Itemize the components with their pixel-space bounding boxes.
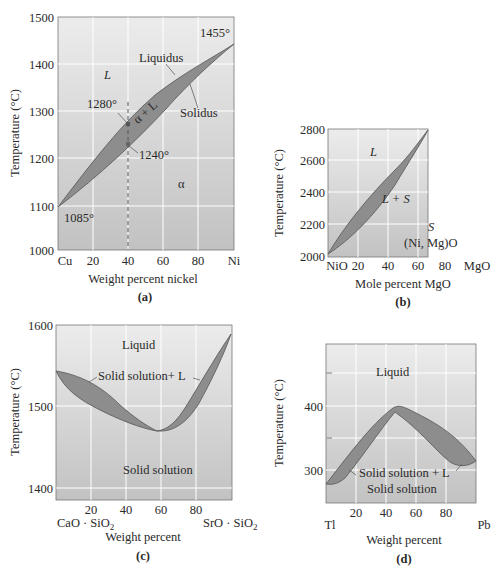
chart-c-x-right-component: SrO · SiO2 xyxy=(203,516,258,532)
chart-c-caption: (c) xyxy=(136,549,150,563)
x-tick: 60 xyxy=(412,259,425,273)
x-tick: 20 xyxy=(352,259,365,273)
x-tick: 80 xyxy=(192,254,205,268)
x-tick: Ni xyxy=(228,254,241,268)
chart-a-label-1240: 1240° xyxy=(139,148,169,162)
x-tick: 80 xyxy=(440,506,453,520)
y-tick: 1500 xyxy=(29,11,54,25)
chart-a-cu-ni: 1500 1400 1300 1200 1100 1000 Temperatur… xyxy=(8,11,241,304)
chart-a-label-1455: 1455° xyxy=(200,26,230,40)
x-tick: 60 xyxy=(410,506,423,520)
y-tick: 1100 xyxy=(29,200,54,214)
chart-a-caption: (a) xyxy=(138,290,153,304)
chart-d-caption: (d) xyxy=(396,552,411,566)
chart-b-label-liquid: L xyxy=(369,145,377,159)
chart-d-tl-pb: 400 300 Temperature (°C) 20 40 60 80 Tl … xyxy=(272,344,491,566)
x-tick: 20 xyxy=(350,506,363,520)
y-tick: 2800 xyxy=(300,123,325,137)
y-tick: 1000 xyxy=(29,244,54,258)
y-tick: 1500 xyxy=(28,400,53,414)
chart-c-label-solid-solution: Solid solution xyxy=(123,463,194,477)
chart-c-y-axis: 1600 1500 1400 Temperature (°C) xyxy=(8,319,53,496)
chart-d-label-liquid: Liquid xyxy=(376,365,410,379)
phase-diagrams-figure: 1500 1400 1300 1200 1100 1000 Temperatur… xyxy=(0,0,496,571)
chart-b-y-axis: 2800 2600 2400 2200 2000 Temperature (°C… xyxy=(272,123,325,264)
chart-c-x-axis: 20 40 60 80 CaO · SiO2 SrO · SiO2 Weight… xyxy=(57,503,258,563)
chart-b-nio-mgo: 2800 2600 2400 2200 2000 Temperature (°C… xyxy=(272,123,490,309)
x-tick: 40 xyxy=(382,259,395,273)
x-tick: NiO xyxy=(326,259,348,273)
chart-c-label-ss-plus-liquid: Solid solution+ L xyxy=(98,369,186,383)
chart-a-x-axis: Cu 20 40 60 80 Ni Weight percent nickel … xyxy=(58,254,241,304)
chart-c-x-axis-label: Weight percent xyxy=(105,530,181,544)
chart-a-label-1280: 1280° xyxy=(87,97,117,111)
chart-b-x-axis-label: Mole percent MgO xyxy=(355,277,451,291)
x-tick: 60 xyxy=(157,254,170,268)
chart-b-label-solid: S xyxy=(428,220,435,234)
x-tick: 80 xyxy=(190,503,203,517)
x-tick: 80 xyxy=(439,259,452,273)
chart-b-label-ni-mg-o: (Ni, Mg)O xyxy=(404,236,457,250)
chart-d-x-left-component: Tl xyxy=(324,518,336,532)
chart-a-label-alpha: α xyxy=(178,177,185,191)
chart-a-label-liquidus: Liquidus xyxy=(139,51,184,65)
chart-c-y-axis-label: Temperature (°C) xyxy=(8,368,22,456)
y-tick: 300 xyxy=(304,464,323,478)
y-tick: 1600 xyxy=(28,319,53,333)
chart-c-cao-sro-silicate: 1600 1500 1400 Temperature (°C) 20 40 60… xyxy=(8,319,258,563)
chart-d-x-axis: 20 40 60 80 Tl Pb Weight percent (d) xyxy=(324,506,490,566)
y-tick: 1400 xyxy=(29,58,54,72)
x-tick: 40 xyxy=(380,506,393,520)
chart-d-label-solid-solution: Solid solution xyxy=(367,482,438,496)
chart-b-y-axis-label: Temperature (°C) xyxy=(272,149,286,237)
x-tick: 60 xyxy=(155,503,168,517)
chart-d-y-axis: 400 300 Temperature (°C) xyxy=(272,373,332,478)
chart-a-y-axis: 1500 1400 1300 1200 1100 1000 Temperatur… xyxy=(8,11,54,258)
y-tick: 2400 xyxy=(300,186,325,200)
y-tick: 1300 xyxy=(29,105,54,119)
chart-a-label-solidus: Solidus xyxy=(180,106,218,120)
x-tick: Cu xyxy=(58,254,73,268)
y-tick: 2600 xyxy=(300,154,325,168)
y-tick: 2000 xyxy=(300,250,325,264)
x-tick: 40 xyxy=(122,254,135,268)
y-tick: 1200 xyxy=(29,152,54,166)
chart-d-y-axis-label: Temperature (°C) xyxy=(272,379,286,467)
chart-a-label-1085: 1085° xyxy=(64,211,94,225)
chart-c-label-liquid: Liquid xyxy=(122,338,156,352)
chart-b-x-axis: NiO 20 40 60 80 MgO Mole percent MgO (b) xyxy=(326,259,490,309)
y-tick: 400 xyxy=(304,400,323,414)
chart-a-y-axis-label: Temperature (°C) xyxy=(8,89,22,177)
x-tick: 40 xyxy=(120,503,133,517)
y-tick: 1400 xyxy=(28,482,53,496)
x-tick: 20 xyxy=(87,254,100,268)
x-tick: 20 xyxy=(85,503,98,517)
chart-b-label-l-plus-s: L + S xyxy=(381,192,410,206)
chart-d-label-ss-plus-liquid: Solid solution + L xyxy=(359,466,450,480)
chart-a-x-axis-label: Weight percent nickel xyxy=(88,272,198,286)
x-tick: MgO xyxy=(464,259,490,273)
chart-a-point-1240 xyxy=(126,142,130,146)
chart-b-caption: (b) xyxy=(395,295,410,309)
chart-d-x-axis-label: Weight percent xyxy=(366,533,442,547)
chart-d-x-right-component: Pb xyxy=(477,518,490,532)
chart-a-label-liquid: L xyxy=(103,68,111,82)
y-tick: 2200 xyxy=(300,218,325,232)
